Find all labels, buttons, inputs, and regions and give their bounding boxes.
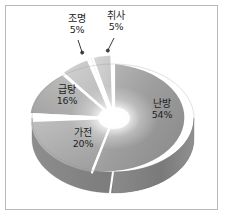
pie-label-geuptang: 급탕 16%: [48, 85, 86, 106]
pie-label-nanbang-value: 54%: [143, 110, 181, 120]
pie-label-jomyeong: 조명 5%: [59, 14, 95, 35]
pie-label-jomyeong-value: 5%: [59, 25, 95, 35]
pie-label-gajeon: 가전 20%: [64, 128, 102, 149]
pie-label-nanbang: 난방 54%: [143, 99, 181, 120]
pie-chart-plot: [0, 0, 225, 217]
pie-label-chwisa-value: 5%: [98, 22, 134, 32]
pie-label-gajeon-value: 20%: [64, 139, 102, 149]
pie-label-chwisa: 취사 5%: [98, 11, 134, 32]
leader-line-chwisa: [108, 38, 114, 50]
pie-center-core-highlight: [98, 107, 130, 129]
pie-label-geuptang-value: 16%: [48, 96, 86, 106]
leader-dot-jomyeong: [81, 51, 84, 54]
leader-dot-chwisa: [106, 49, 109, 52]
leader-line-jomyeong: [78, 40, 82, 52]
pie-chart-figure: 조명 5% 취사 5% 난방 54% 급탕 16% 가전 20%: [0, 0, 225, 217]
leader-lines: [78, 38, 114, 54]
